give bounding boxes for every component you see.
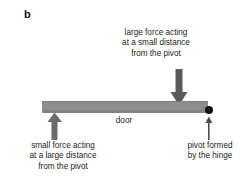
- panel-label: b: [24, 8, 31, 20]
- large-force-caption-line-1: large force acting: [96, 28, 216, 38]
- pivot-caption-line-2: by the hinge: [172, 151, 248, 161]
- pivot-pointer-arrow-icon: [202, 116, 216, 140]
- small-force-caption: small force acting at a large distance f…: [4, 141, 122, 172]
- small-force-up-arrow-icon: [46, 112, 64, 140]
- door-label: door: [98, 116, 150, 126]
- pivot-caption: pivot formed by the hinge: [172, 141, 248, 162]
- large-force-caption-line-2: at a small distance: [96, 38, 216, 48]
- large-force-caption: large force acting at a small distance f…: [96, 28, 216, 59]
- small-force-caption-line-2: at a large distance: [4, 151, 122, 161]
- small-force-caption-line-3: from the pivot: [4, 162, 122, 172]
- pivot-caption-line-1: pivot formed: [172, 141, 248, 151]
- small-force-caption-line-1: small force acting: [4, 141, 122, 151]
- pivot-dot: [205, 106, 213, 114]
- large-force-caption-line-3: from the pivot: [96, 49, 216, 59]
- figure-panel-b: b large force acting at a small distance…: [0, 0, 250, 188]
- door-bar: [42, 101, 208, 113]
